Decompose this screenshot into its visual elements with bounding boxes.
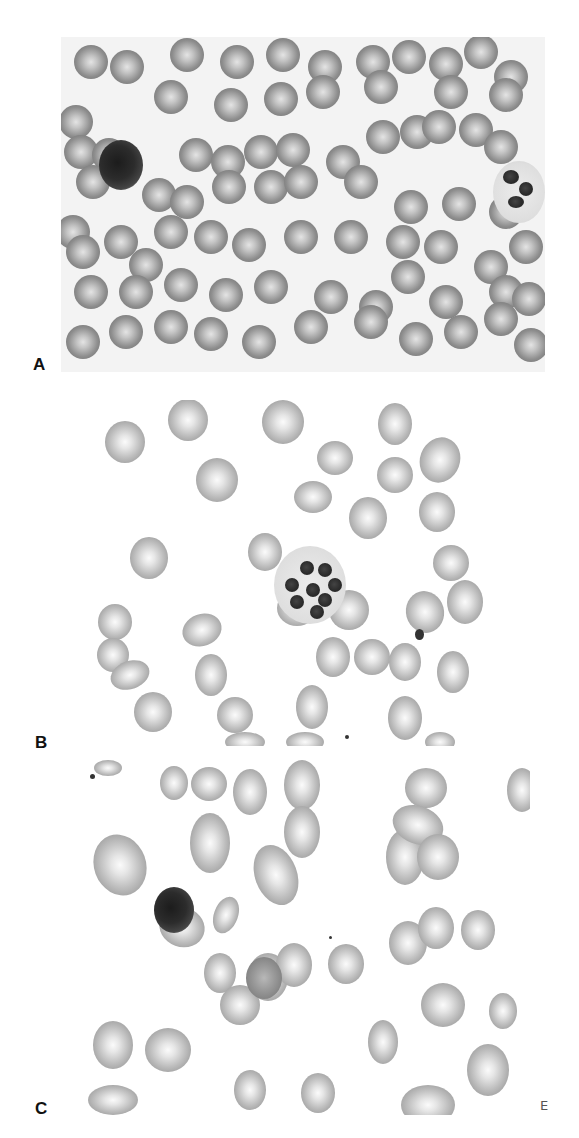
red-cell	[242, 325, 276, 359]
red-cell	[512, 282, 545, 316]
red-cell	[266, 38, 300, 72]
red-cell	[514, 328, 545, 362]
red-cell	[388, 696, 422, 740]
red-cell	[98, 604, 132, 640]
neutrophil-lobe	[285, 578, 299, 592]
red-cell	[179, 138, 213, 172]
red-cell	[296, 685, 328, 729]
red-cell	[154, 80, 188, 114]
red-cell	[94, 760, 122, 776]
red-cell	[349, 497, 387, 539]
red-cell	[66, 325, 100, 359]
red-cell	[447, 580, 483, 624]
red-cell	[145, 1028, 191, 1072]
red-cell	[317, 441, 353, 475]
neutrophil-lobe	[503, 170, 519, 184]
red-cell	[195, 654, 227, 696]
red-cell	[429, 285, 463, 319]
red-cell	[334, 220, 368, 254]
lymphocyte	[154, 887, 194, 933]
panel-b-label: B	[35, 734, 47, 751]
red-cell	[85, 827, 155, 903]
red-cell	[160, 766, 188, 800]
red-cell	[401, 1085, 455, 1115]
red-cell	[437, 651, 469, 693]
red-cell	[294, 310, 328, 344]
red-cell	[284, 806, 320, 858]
red-cell	[424, 230, 458, 264]
red-cell	[489, 993, 517, 1029]
red-cell	[294, 481, 332, 513]
red-cell	[88, 1085, 138, 1115]
red-cell	[368, 1020, 398, 1064]
red-cell	[233, 769, 267, 815]
red-cell	[254, 170, 288, 204]
red-cell	[190, 813, 230, 873]
red-cell	[484, 302, 518, 336]
red-cell	[208, 893, 244, 937]
red-cell	[170, 38, 204, 72]
red-cell	[134, 692, 172, 732]
panel-b-micrograph	[85, 400, 535, 746]
red-cell	[422, 110, 456, 144]
red-cell	[110, 50, 144, 84]
red-cell	[354, 305, 388, 339]
red-cell	[254, 270, 288, 304]
red-cell	[464, 37, 498, 69]
red-cell	[276, 133, 310, 167]
red-cell	[286, 732, 324, 746]
neutrophil-lobe	[290, 595, 304, 609]
panel-c-micrograph	[78, 760, 530, 1115]
red-cell	[328, 944, 364, 984]
red-cell	[178, 608, 227, 652]
red-cell	[74, 45, 108, 79]
red-cell	[154, 310, 188, 344]
panel-c-label: C	[35, 1100, 47, 1117]
red-cell	[413, 432, 466, 489]
lymphocyte	[99, 140, 143, 190]
red-cell	[170, 185, 204, 219]
red-cell	[314, 280, 348, 314]
platelet	[345, 735, 349, 739]
red-cell	[214, 88, 248, 122]
red-cell	[364, 70, 398, 104]
red-cell	[306, 75, 340, 109]
red-cell	[168, 400, 208, 441]
red-cell	[401, 587, 449, 637]
red-cell	[467, 1044, 509, 1096]
red-cell	[248, 533, 282, 571]
red-cell	[377, 457, 413, 493]
red-cell	[425, 732, 455, 746]
red-cell	[234, 1070, 266, 1110]
red-cell	[119, 275, 153, 309]
red-cell	[391, 260, 425, 294]
red-cell	[217, 697, 253, 733]
red-cell	[74, 275, 108, 309]
red-cell	[244, 135, 278, 169]
red-cell	[194, 220, 228, 254]
red-cell	[164, 268, 198, 302]
red-cell	[366, 120, 400, 154]
neutrophil-lobe	[328, 578, 342, 592]
red-cell	[194, 317, 228, 351]
red-cell	[392, 40, 426, 74]
platelet	[415, 629, 424, 640]
red-cell	[301, 1073, 335, 1113]
red-cell	[209, 278, 243, 312]
red-cell	[418, 907, 454, 949]
red-cell	[354, 639, 390, 675]
red-cell-dense	[246, 957, 282, 999]
red-cell	[484, 130, 518, 164]
red-cell	[284, 165, 318, 199]
red-cell	[489, 78, 523, 112]
red-cell	[405, 768, 447, 808]
red-cell	[419, 492, 455, 532]
red-cell	[66, 235, 100, 269]
red-cell	[220, 45, 254, 79]
red-cell	[284, 220, 318, 254]
neutrophil-lobe	[318, 593, 332, 607]
red-cell	[442, 187, 476, 221]
panel-a-micrograph	[61, 37, 545, 372]
red-cell	[394, 190, 428, 224]
red-cell	[264, 82, 298, 116]
